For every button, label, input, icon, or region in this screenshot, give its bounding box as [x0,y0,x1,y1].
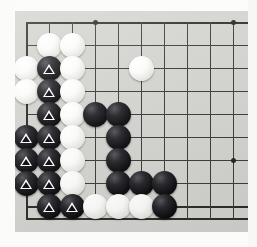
triangle-marker-inner-icon [45,113,53,119]
triangle-marker-inner-icon [22,159,30,165]
photo-edge-left [0,0,15,247]
triangle-marker-inner-icon [68,205,76,211]
black-stone[interactable] [83,102,108,127]
white-stone[interactable] [60,125,85,150]
marked-black-stone[interactable] [37,194,62,219]
go-board-screenshot [0,0,257,247]
white-stone[interactable] [14,79,39,104]
white-stone[interactable] [60,148,85,173]
black-stone[interactable] [152,194,177,219]
marked-black-stone[interactable] [14,148,39,173]
white-stone[interactable] [14,56,39,81]
black-stone[interactable] [106,171,131,196]
marked-black-stone[interactable] [37,56,62,81]
star-point [93,20,98,25]
white-stone[interactable] [129,56,154,81]
photo-edge-right [248,0,257,247]
black-stone[interactable] [152,171,177,196]
marked-black-stone[interactable] [37,148,62,173]
photo-edge-top [0,0,257,11]
white-stone[interactable] [60,79,85,104]
marked-black-stone[interactable] [14,171,39,196]
white-stone[interactable] [60,56,85,81]
white-stone[interactable] [83,194,108,219]
marked-black-stone[interactable] [37,125,62,150]
white-stone[interactable] [60,102,85,127]
white-stone[interactable] [129,194,154,219]
marked-black-stone[interactable] [37,102,62,127]
triangle-marker-inner-icon [22,182,30,188]
grid-line-vertical [210,22,211,219]
marked-black-stone[interactable] [37,79,62,104]
star-point [231,158,236,163]
grid-line-vertical [233,22,234,219]
grid-line-vertical [187,22,188,219]
black-stone[interactable] [106,102,131,127]
white-stone[interactable] [60,171,85,196]
white-stone[interactable] [106,194,131,219]
marked-black-stone[interactable] [14,125,39,150]
star-point [231,20,236,25]
photo-edge-bottom [0,232,257,247]
triangle-marker-inner-icon [45,136,53,142]
triangle-marker-inner-icon [45,67,53,73]
triangle-marker-inner-icon [45,205,53,211]
triangle-marker-inner-icon [45,159,53,165]
marked-black-stone[interactable] [60,194,85,219]
white-stone[interactable] [60,33,85,58]
black-stone[interactable] [106,148,131,173]
triangle-marker-inner-icon [45,182,53,188]
black-stone[interactable] [129,171,154,196]
white-stone[interactable] [37,33,62,58]
marked-black-stone[interactable] [37,171,62,196]
black-stone[interactable] [106,125,131,150]
triangle-marker-inner-icon [22,136,30,142]
triangle-marker-inner-icon [45,90,53,96]
